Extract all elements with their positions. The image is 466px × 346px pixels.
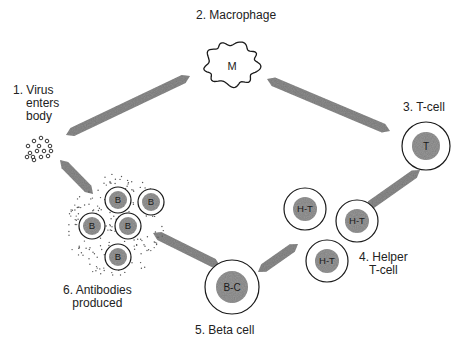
antibody-dot [74, 209, 75, 210]
arrow-beta-to-antibodies [153, 232, 220, 267]
antibody-dot [146, 215, 147, 216]
b-cell: B [138, 189, 164, 215]
antibody-dot [155, 231, 156, 232]
helper-tcell: H-T [284, 188, 326, 230]
b-cell: B [115, 213, 141, 239]
antibody-dot [70, 209, 71, 210]
antibody-dot [133, 191, 134, 192]
antibody-dot [104, 177, 105, 178]
antibody-dot [128, 182, 129, 183]
antibody-dot [106, 184, 107, 185]
label-helper-line2: T-cell [359, 264, 408, 277]
antibody-dot [127, 180, 128, 181]
antibody-dot [89, 264, 90, 265]
helper-tcell-label: H-T [297, 203, 313, 214]
antibody-dot [147, 236, 148, 237]
antibody-dot [69, 213, 70, 214]
immune-response-diagram: M TH-TH-TH-TB-CBBBBB 2. Macrophage 1. Vi… [0, 0, 466, 346]
antibody-dot [100, 197, 101, 198]
b-cell: B [105, 244, 131, 270]
antibody-dot [111, 230, 112, 231]
antibody-dot [78, 207, 79, 208]
virus-particle [25, 155, 29, 159]
antibody-dot [99, 208, 100, 209]
virus-particle [49, 149, 53, 153]
antibody-dot [71, 249, 72, 250]
antibody-dot [71, 211, 72, 212]
antibody-dot [94, 253, 95, 254]
virus-particle [39, 136, 43, 140]
tcell: T [402, 122, 450, 170]
antibody-dot [163, 230, 164, 231]
antibody-dot [140, 239, 141, 240]
b-cell-label: B [115, 194, 121, 205]
virus-particle [42, 149, 46, 153]
antibody-dot [76, 224, 77, 225]
antibody-dot [99, 268, 100, 269]
arrows-group [60, 75, 420, 272]
antibody-dot [156, 244, 157, 245]
antibody-dot [140, 262, 141, 263]
antibody-dot [144, 267, 145, 268]
antibody-dot [126, 186, 127, 187]
antibody-dot [109, 182, 110, 183]
antibody-dot [79, 246, 80, 247]
antibody-dot [110, 218, 111, 219]
arrow-macrophage-to-tcell [267, 78, 390, 133]
antibody-dot [119, 179, 120, 180]
antibody-dot [134, 245, 135, 246]
antibody-dot [150, 250, 151, 251]
antibody-dot [103, 183, 104, 184]
antibody-dot [109, 212, 110, 213]
label-tcell-line1: 3. T-cell [403, 101, 445, 114]
cells-group: TH-TH-TH-TB-CBBBBB [79, 122, 450, 314]
antibody-dot [131, 262, 132, 263]
label-antibodies: 6. Antibodies produced [63, 284, 132, 310]
antibody-dot [124, 272, 125, 273]
antibody-dot [142, 182, 143, 183]
antibody-dot [100, 245, 101, 246]
antibody-dot [98, 210, 99, 211]
antibody-dot [77, 207, 78, 208]
label-macrophage: 2. Macrophage [196, 9, 276, 22]
b-cell-label: B [148, 196, 154, 207]
antibody-dot [79, 247, 80, 248]
antibody-dot [115, 179, 116, 180]
antibody-dot [162, 235, 163, 236]
antibody-dot [92, 197, 93, 198]
antibody-dot [92, 252, 93, 253]
virus-particle [45, 139, 49, 143]
helper-tcell-label: H-T [349, 215, 365, 226]
label-beta: 5. Beta cell [195, 324, 254, 337]
virus-particle [39, 155, 43, 159]
antibody-dot [134, 249, 135, 250]
antibody-dot [88, 204, 89, 205]
antibody-dot [156, 242, 157, 243]
antibody-dot [75, 224, 76, 225]
antibody-dot [109, 242, 110, 243]
antibody-dot [107, 229, 108, 230]
antibody-dot [121, 176, 122, 177]
antibody-dot [131, 189, 132, 190]
arrow-virus-to-macrophage [66, 75, 190, 136]
antibody-dot [74, 204, 75, 205]
antibody-dot [97, 267, 98, 268]
antibody-dot [136, 244, 137, 245]
antibody-dot [154, 247, 155, 248]
antibody-dot [92, 271, 93, 272]
antibody-dot [95, 270, 96, 271]
antibody-dot [76, 215, 77, 216]
antibody-dot [154, 241, 155, 242]
virus-particle [32, 139, 36, 143]
antibody-dot [101, 209, 102, 210]
antibody-dot [93, 209, 94, 210]
antibody-dot [78, 213, 79, 214]
antibody-dot [103, 267, 104, 268]
antibody-dot [100, 273, 101, 274]
b-cell-label: B [115, 251, 121, 262]
virus-particle [48, 144, 52, 148]
antibody-dot [80, 207, 81, 208]
antibody-dot [85, 248, 86, 249]
label-macrophage-line1: 2. Macrophage [196, 9, 276, 22]
antibody-dot [144, 246, 145, 247]
